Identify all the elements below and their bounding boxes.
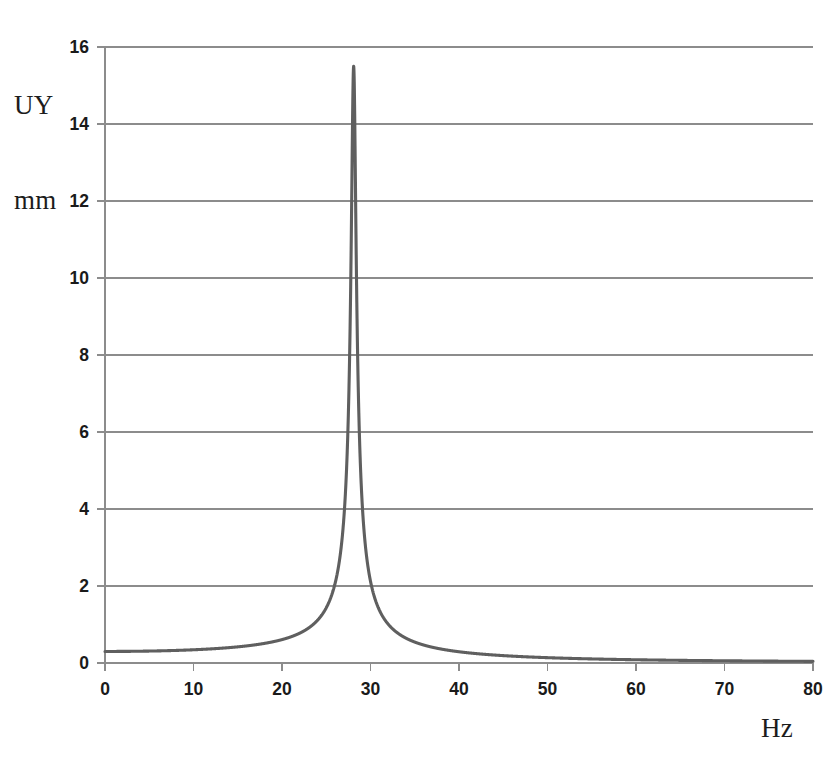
gridlines-group [105, 47, 813, 663]
response-curve [105, 66, 813, 661]
x-tick-label-10: 10 [184, 679, 204, 699]
y-tick-label-0: 0 [79, 653, 89, 673]
data-curve-group [105, 66, 813, 661]
y-tick-label-4: 4 [79, 499, 89, 519]
x-tick-label-80: 80 [803, 679, 823, 699]
y-tick-label-10: 10 [70, 268, 90, 288]
plot-canvas: 0246810121416 01020304050607080 [0, 0, 836, 777]
y-tick-label-6: 6 [79, 422, 89, 442]
x-tick-label-0: 0 [100, 679, 110, 699]
x-tick-label-30: 30 [361, 679, 381, 699]
x-tick-label-70: 70 [715, 679, 735, 699]
x-tick-label-60: 60 [626, 679, 646, 699]
y-tick-label-14: 14 [70, 114, 90, 134]
x-tick-label-20: 20 [272, 679, 292, 699]
x-tick-label-50: 50 [538, 679, 558, 699]
y-tick-label-2: 2 [79, 576, 89, 596]
frequency-response-chart: UY mm Hz 0246810121416 01020304050607080 [0, 0, 836, 777]
y-tick-label-12: 12 [70, 191, 90, 211]
x-tick-label-40: 40 [449, 679, 469, 699]
x-tick-group: 01020304050607080 [100, 663, 823, 699]
y-tick-group: 0246810121416 [70, 37, 105, 673]
y-tick-label-16: 16 [70, 37, 90, 57]
y-tick-label-8: 8 [79, 345, 89, 365]
